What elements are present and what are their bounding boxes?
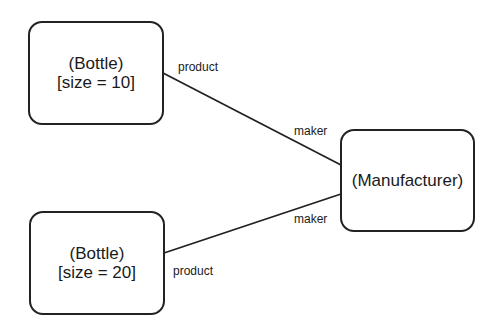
role-label-maker-top: maker	[294, 125, 327, 138]
node-manufacturer: (Manufacturer)	[340, 129, 475, 232]
role-label-product-top: product	[178, 61, 218, 74]
node-attribute-label: [size = 20]	[58, 263, 136, 282]
diagram-canvas: (Bottle) [size = 10] (Bottle) [size = 20…	[0, 0, 497, 334]
node-class-label: (Bottle)	[69, 54, 124, 73]
node-bottle-size-10: (Bottle) [size = 10]	[28, 21, 164, 125]
role-label-maker-bottom: maker	[294, 213, 327, 226]
node-attribute-label: [size = 10]	[57, 73, 135, 92]
role-label-product-bottom: product	[173, 265, 213, 278]
node-class-label: (Manufacturer)	[352, 171, 463, 190]
association-edge-bottle1-manufacturer	[163, 73, 341, 165]
node-bottle-size-20: (Bottle) [size = 20]	[29, 211, 165, 315]
node-class-label: (Bottle)	[70, 244, 125, 263]
